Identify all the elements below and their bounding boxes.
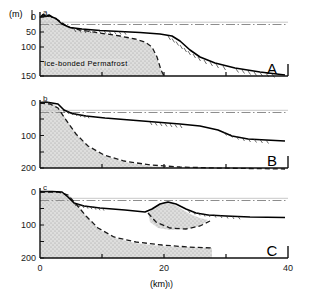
permafrost-annotation-bound: Ice-bonded Permafrost bbox=[44, 59, 128, 68]
permafrost-cross-section-figure: 0 50 100 150 (m) a Ice-bonded Permafrost… bbox=[0, 0, 311, 301]
x-unit-label-bound: (km) bbox=[150, 279, 168, 289]
y-unit-label-bound: (m) bbox=[8, 9, 24, 19]
